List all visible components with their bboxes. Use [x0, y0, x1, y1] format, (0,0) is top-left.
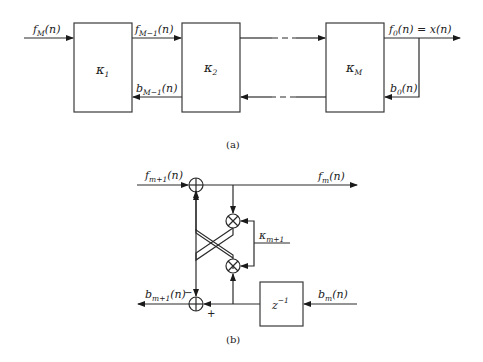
backward-input-label: bm(n)	[318, 288, 348, 303]
input-label: fM(n)	[32, 23, 60, 38]
caption-b: (b)	[226, 334, 240, 345]
kappa-label: κm+1	[258, 229, 284, 244]
adder-bottom	[189, 297, 203, 311]
caption-a: (a)	[226, 139, 240, 150]
kappa-to-bottom	[241, 243, 254, 266]
multiplier-top	[226, 214, 240, 228]
forward-label-1: fM−1(n)	[134, 23, 174, 38]
diagram-b: fm+1(n) fm(n) κm+1	[137, 169, 357, 345]
backward-output-label: bm+1(n)	[145, 288, 186, 303]
kappa-to-top	[241, 221, 254, 243]
feedback-label: b0(n)	[390, 82, 418, 97]
diagram-a: κ1 κ2 κM fM(n) fM−1(n) bM−1(n) f0(n) = x…	[24, 23, 460, 150]
adder-top	[189, 178, 203, 192]
forward-output-label: fm(n)	[317, 170, 345, 185]
forward-input-label: fm+1(n)	[144, 169, 183, 184]
backward-label-1: bM−1(n)	[136, 82, 177, 97]
output-label: f0(n) = x(n)	[388, 23, 452, 38]
lattice-diagram: κ1 κ2 κM fM(n) fM−1(n) bM−1(n) f0(n) = x…	[0, 0, 483, 362]
plus-sign: +	[207, 308, 215, 319]
